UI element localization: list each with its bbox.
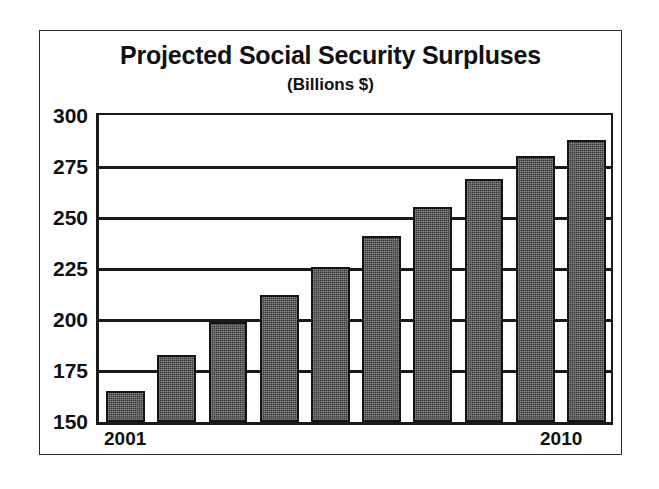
bar-2001 [106,391,145,422]
plot-area [96,113,613,425]
y-axis-tick-label-175: 175 [32,360,88,381]
chart-title: Projected Social Security Surpluses [39,40,622,70]
y-axis-tick-label-300: 300 [32,105,88,126]
plot-inner [99,115,611,422]
bar-2007 [413,207,452,422]
bar-2005 [311,267,350,422]
bar-2006 [362,236,401,422]
bar-2009 [516,156,555,422]
x-axis-tick-label-last: 2010 [540,428,582,450]
bar-2010 [567,140,606,422]
y-axis-tick-label-225: 225 [32,258,88,279]
bar-2002 [157,355,196,422]
x-axis-tick-label-first: 2001 [104,428,146,450]
bar-2004 [260,295,299,422]
bar-2003 [209,322,248,422]
chart-subtitle: (Billions $) [39,74,622,95]
y-axis-labels: 150175200225250275300 [30,0,88,489]
chart-figure: Projected Social Security Surpluses (Bil… [0,0,659,489]
bar-2008 [465,179,504,422]
y-axis-tick-label-275: 275 [32,156,88,177]
y-axis-tick-label-250: 250 [32,207,88,228]
y-axis-tick-label-200: 200 [32,309,88,330]
y-axis-tick-label-150: 150 [32,411,88,432]
